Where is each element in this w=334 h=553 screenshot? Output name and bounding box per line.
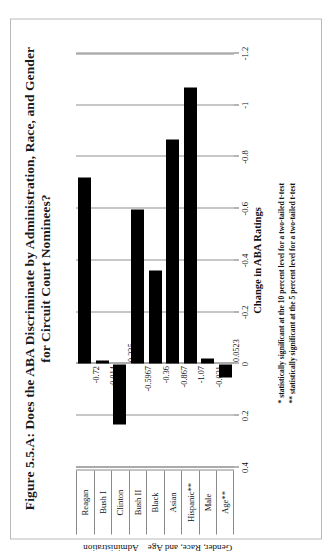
- value-axis-tick-label: 0.4: [240, 462, 250, 473]
- value-axis-tick-label: -1: [240, 101, 250, 108]
- category-label: Clinton: [115, 489, 125, 515]
- value-axis-tick-label: 0.2: [240, 410, 250, 421]
- value-axis-tick-label: 0: [240, 361, 250, 365]
- value-axis-tick-label: -1.2: [240, 46, 250, 60]
- category-tick-cell: Hispanic**: [181, 470, 199, 534]
- category-group-label: Administration: [83, 542, 139, 552]
- category-label: Reagan: [80, 489, 90, 515]
- figure-title-line-2: for Circuit Court Nominees?: [38, 43, 54, 513]
- bar: [113, 364, 126, 425]
- figure-title-line-1: Figure 5.5.A: Does the ABA Discriminate …: [22, 43, 38, 513]
- category-label: Age**: [220, 491, 230, 514]
- bar: [96, 360, 109, 364]
- bar: [184, 87, 197, 364]
- gridline: [76, 207, 234, 208]
- plot-area: -0.72-0.0140.235-0.5967-0.36-0.867-1.07-…: [76, 53, 234, 467]
- value-axis-tick: [234, 466, 239, 467]
- value-axis-tick: [234, 259, 239, 260]
- value-axis-tick-label: -0.4: [240, 253, 250, 267]
- category-tick-cell: Bush II: [129, 470, 147, 534]
- bar: [131, 209, 144, 363]
- gridline: [76, 52, 234, 53]
- value-axis-tick-label: -0.6: [240, 201, 250, 215]
- category-axis: ReaganBush IClintonBush IIBlackAsianHisp…: [76, 469, 234, 533]
- category-label: Hispanic**: [186, 482, 196, 521]
- footnotes: * statistically significant at the 10 pe…: [276, 182, 298, 403]
- category-label: Black: [150, 492, 160, 512]
- value-axis-tick: [234, 311, 239, 312]
- category-tick-cell: Male: [199, 470, 217, 534]
- bar: [149, 270, 162, 363]
- bar-value-label: -0.72: [92, 366, 101, 383]
- category-label: Asian: [168, 492, 178, 512]
- figure-page: Figure 5.5.A: Does the ABA Discriminate …: [0, 0, 334, 553]
- category-group-label: Gender, Race, and Age: [148, 542, 233, 552]
- category-label: Bush I: [98, 491, 108, 514]
- bar-value-label: -0.5967: [144, 366, 153, 392]
- gridline: [76, 104, 234, 105]
- footnote-line-2: ** statistically significant at the 5 pe…: [287, 182, 298, 403]
- footnote-line-1: * statistically significant at the 10 pe…: [276, 182, 287, 403]
- rotated-figure-container: Figure 5.5.A: Does the ABA Discriminate …: [0, 0, 334, 553]
- bar-value-label: -0.36: [162, 366, 171, 383]
- bar: [201, 358, 214, 363]
- value-axis-tick: [234, 156, 239, 157]
- category-tick-cell: Black: [146, 470, 164, 534]
- gridline: [76, 414, 234, 415]
- value-axis-tick: [234, 207, 239, 208]
- category-tick-cell: Age**: [216, 470, 234, 534]
- value-axis-title: Change in ABA Ratings: [252, 53, 263, 467]
- gridline: [76, 259, 234, 260]
- value-axis-tick: [234, 104, 239, 105]
- value-axis-tick-label: -0.2: [240, 305, 250, 319]
- value-axis-tick: [234, 414, 239, 415]
- category-label: Bush II: [133, 489, 143, 515]
- category-label: Male: [203, 493, 213, 511]
- gridline: [76, 466, 234, 467]
- value-axis-tick: [234, 363, 239, 364]
- figure-title: Figure 5.5.A: Does the ABA Discriminate …: [22, 43, 55, 513]
- bar: [166, 139, 179, 363]
- category-tick-cell: Asian: [164, 470, 182, 534]
- bar: [78, 177, 91, 363]
- category-tick-cell: Bush I: [94, 470, 112, 534]
- bar: [219, 364, 232, 378]
- value-axis-tick-label: -0.8: [240, 150, 250, 164]
- gridline: [76, 156, 234, 157]
- category-tick-cell: Reagan: [76, 470, 94, 534]
- bar-value-label: -0.867: [180, 366, 189, 387]
- bar-value-label: -1.07: [197, 366, 206, 383]
- category-tick-cell: Clinton: [111, 470, 129, 534]
- value-axis-tick: [234, 52, 239, 53]
